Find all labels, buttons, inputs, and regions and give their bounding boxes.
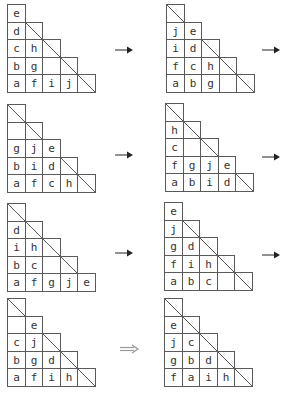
label-cell: b: [7, 256, 26, 274]
diagonal-line: [26, 222, 42, 238]
diagonal-line: [218, 352, 234, 368]
cell-letter: f: [31, 277, 38, 288]
empty-cell: [42, 256, 61, 274]
cell-letter: c: [13, 337, 20, 348]
diagonal-line: [43, 239, 60, 256]
cell-letter: i: [188, 259, 195, 270]
label-cell: b: [7, 157, 26, 175]
label-cell: b: [184, 74, 202, 93]
diagonal-cell: [25, 22, 43, 40]
label-cell: a: [7, 174, 26, 193]
cell-letter: e: [170, 320, 177, 331]
cell-letter: i: [206, 177, 213, 188]
cell-letter: i: [205, 372, 212, 383]
right-arrow-icon: [115, 248, 135, 258]
diagonal-line: [235, 273, 252, 290]
diagonal-line: [237, 75, 254, 92]
label-cell: g: [164, 237, 183, 256]
label-cell: c: [199, 272, 218, 291]
cell-letter: j: [66, 277, 73, 288]
diagonal-cell: [60, 351, 78, 369]
diagonal-cell: [235, 173, 254, 192]
diagonal-line: [78, 175, 95, 192]
cell-letter: c: [13, 43, 20, 54]
cell-letter: e: [48, 143, 55, 154]
label-cell: j: [60, 74, 78, 93]
cell-letter: j: [31, 143, 38, 154]
cell-letter: e: [170, 206, 177, 217]
diagonal-cell: [199, 333, 218, 352]
cell-letter: c: [190, 61, 197, 72]
label-cell: h: [217, 368, 235, 387]
cell-letter: d: [13, 26, 20, 37]
diagonal-line: [61, 58, 77, 74]
cell-letter: a: [13, 372, 20, 383]
cell-letter: j: [66, 78, 73, 89]
label-cell: f: [164, 368, 183, 387]
label-cell: h: [60, 368, 78, 387]
label-cell: b: [182, 351, 200, 369]
label-cell: h: [25, 39, 43, 58]
cell-letter: b: [13, 260, 20, 271]
cell-letter: h: [66, 372, 73, 383]
diagonal-cell: [217, 351, 235, 369]
empty-cell: [183, 138, 201, 157]
cell-letter: d: [13, 225, 20, 236]
cell-letter: g: [207, 78, 214, 89]
cell-letter: b: [13, 161, 20, 172]
diagonal-line: [167, 5, 184, 22]
cell-letter: d: [205, 355, 212, 366]
cell-letter: h: [66, 178, 73, 189]
label-cell: d: [42, 157, 61, 175]
diagonal-line: [166, 104, 183, 121]
empty-cell: [217, 272, 235, 291]
label-cell: d: [218, 173, 236, 192]
label-cell: j: [164, 333, 183, 352]
label-cell: h: [60, 174, 78, 193]
diagonal-line: [184, 122, 200, 138]
cell-letter: a: [171, 177, 178, 188]
empty-cell: [7, 316, 26, 334]
label-cell: c: [7, 39, 26, 58]
label-cell: e: [164, 202, 183, 221]
cell-letter: f: [31, 78, 38, 89]
cell-letter: h: [205, 259, 212, 270]
label-cell: e: [7, 4, 26, 23]
label-cell: h: [201, 57, 220, 75]
diagonal-cell: [42, 333, 61, 352]
cell-letter: i: [31, 161, 38, 172]
cell-letter: b: [190, 78, 197, 89]
cell-letter: i: [13, 242, 20, 253]
cell-letter: g: [13, 143, 20, 154]
label-cell: a: [164, 272, 183, 291]
label-cell: a: [7, 74, 26, 93]
label-cell: d: [7, 22, 26, 40]
cell-letter: a: [13, 178, 20, 189]
diagonal-line: [78, 75, 95, 92]
cell-letter: i: [48, 372, 55, 383]
empty-cell: [42, 57, 61, 75]
label-cell: d: [42, 351, 61, 369]
label-cell: e: [164, 316, 183, 334]
label-cell: g: [25, 57, 43, 75]
label-cell: c: [184, 57, 202, 75]
diagonal-line: [165, 299, 182, 316]
label-cell: f: [25, 74, 43, 93]
cell-letter: f: [170, 259, 177, 270]
cell-letter: h: [31, 242, 38, 253]
label-cell: g: [25, 351, 43, 369]
label-cell: f: [25, 174, 43, 193]
label-cell: c: [42, 174, 61, 193]
diagonal-line: [202, 40, 219, 57]
label-cell: a: [166, 74, 185, 93]
cell-letter: c: [31, 260, 38, 271]
cell-letter: g: [189, 160, 196, 171]
diagonal-cell: [236, 74, 255, 93]
cell-letter: f: [31, 178, 38, 189]
cell-letter: h: [207, 61, 214, 72]
empty-cell: [219, 74, 237, 93]
label-cell: d: [7, 221, 26, 239]
cell-letter: a: [188, 372, 195, 383]
label-cell: j: [200, 156, 219, 174]
label-cell: i: [199, 368, 218, 387]
